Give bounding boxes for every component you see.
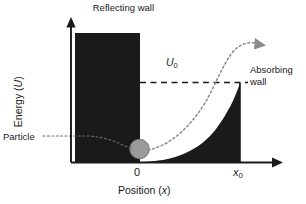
diagram-canvas bbox=[0, 0, 306, 204]
absorbing-wall-label: Absorbing wall bbox=[250, 64, 306, 87]
u0-subscript: 0 bbox=[174, 61, 178, 70]
y-axis-title-prefix: Energy ( bbox=[12, 87, 24, 127]
u0-level-label: U0 bbox=[166, 57, 178, 71]
x-axis-tick-x0: x0 bbox=[233, 167, 243, 181]
reflecting-wall-block bbox=[75, 33, 140, 162]
y-axis-title-variable: U bbox=[12, 80, 24, 88]
particle-trajectory-path bbox=[148, 43, 260, 150]
u0-variable: U bbox=[166, 56, 174, 68]
x-axis-title: Position (x) bbox=[118, 185, 171, 197]
particle-ball bbox=[130, 139, 150, 159]
y-axis-title-suffix: ) bbox=[12, 76, 24, 80]
reflecting-wall-label: Reflecting wall bbox=[78, 2, 154, 14]
x-axis-title-suffix: ) bbox=[167, 184, 171, 196]
potential-energy-diagram: Reflecting wall Absorbing wall Particle … bbox=[0, 0, 306, 204]
y-axis-arrowhead-icon bbox=[66, 17, 75, 28]
x-axis-arrowhead-icon bbox=[272, 158, 283, 168]
y-axis-title: Energy (U) bbox=[13, 62, 25, 142]
x-axis-tick-origin: 0 bbox=[134, 167, 140, 179]
trajectory-arrowhead-icon bbox=[254, 38, 266, 50]
x0-subscript: 0 bbox=[239, 171, 243, 180]
x-axis-title-prefix: Position ( bbox=[118, 184, 162, 196]
